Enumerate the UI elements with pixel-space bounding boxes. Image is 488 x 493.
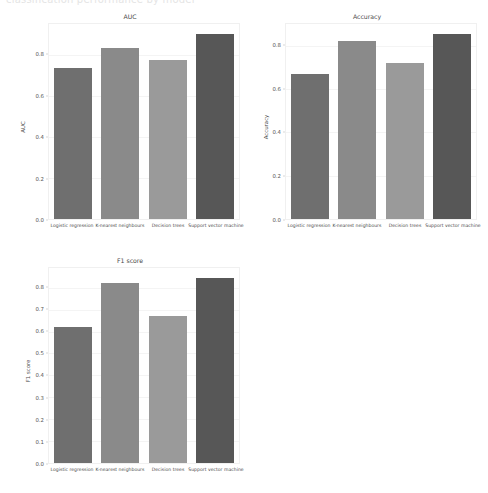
bar-f1-0: [54, 327, 92, 463]
bars-auc: [49, 24, 239, 219]
y-tick-label: 0.4: [272, 129, 281, 135]
bars-f1: [49, 268, 239, 463]
chart-title-auc: AUC: [18, 12, 242, 21]
x-tick-label: K-nearest neighbours: [333, 222, 382, 229]
bar-auc-1: [101, 48, 139, 219]
y-tick-label: 0.7: [35, 306, 44, 312]
bar-f1-1: [101, 283, 139, 463]
plot-area-f1: [48, 267, 240, 464]
x-tick-label: Support vector machine: [425, 222, 480, 229]
x-axis-ticks-accuracy: Logistic regressionK-nearest neighboursD…: [285, 222, 477, 234]
y-tick-label: 0.8: [35, 284, 44, 290]
bars-accuracy: [286, 24, 476, 219]
chart-title-accuracy: Accuracy: [255, 12, 479, 21]
y-tick-label: 0.2: [35, 176, 44, 182]
bar-auc-0: [54, 68, 92, 219]
x-tick-label: Support vector machine: [188, 466, 243, 473]
y-tick-label: 0.1: [35, 439, 44, 445]
chart-panel-f1: F1 score F1 score 0.00.10.20.30.40.50.60…: [18, 256, 242, 486]
chart-panel-accuracy: Accuracy Accuracy 0.00.20.40.60.8 Logist…: [255, 12, 479, 242]
y-axis-ticks-auc: 0.00.20.40.60.8: [18, 23, 48, 220]
y-axis-ticks-accuracy: 0.00.20.40.60.8: [255, 23, 285, 220]
chart-title-f1: F1 score: [18, 256, 242, 265]
y-tick-label: 0.8: [272, 42, 281, 48]
y-tick-label: 0.0: [272, 217, 281, 223]
x-tick-label: Logistic regression: [288, 222, 331, 229]
y-tick-label: 0.4: [35, 372, 44, 378]
bar-f1-3: [196, 278, 234, 463]
y-tick-label: 0.6: [35, 93, 44, 99]
bar-accuracy-0: [291, 74, 329, 219]
x-tick-label: Support vector machine: [188, 222, 243, 229]
bar-auc-3: [196, 34, 234, 219]
x-tick-label: K-nearest neighbours: [96, 222, 145, 229]
x-tick-label: Decision trees: [152, 222, 185, 229]
bar-accuracy-3: [433, 34, 471, 219]
x-tick-label: K-nearest neighbours: [96, 466, 145, 473]
x-axis-ticks-f1: Logistic regressionK-nearest neighboursD…: [48, 466, 240, 478]
x-tick-label: Logistic regression: [51, 466, 94, 473]
plot-area-accuracy: [285, 23, 477, 220]
y-tick-label: 0.2: [272, 173, 281, 179]
bar-auc-2: [149, 60, 187, 219]
y-tick-label: 0.5: [35, 350, 44, 356]
y-tick-label: 0.4: [35, 134, 44, 140]
y-tick-label: 0.0: [35, 217, 44, 223]
x-tick-label: Decision trees: [152, 466, 185, 473]
plot-area-auc: [48, 23, 240, 220]
bar-accuracy-1: [338, 41, 376, 219]
y-tick-label: 0.8: [35, 51, 44, 57]
y-tick-label: 0.0: [35, 461, 44, 467]
x-axis-ticks-auc: Logistic regressionK-nearest neighboursD…: [48, 222, 240, 234]
bar-accuracy-2: [386, 63, 424, 219]
x-tick-label: Decision trees: [389, 222, 422, 229]
y-tick-label: 0.6: [35, 328, 44, 334]
figure-bar-chart-grid: AUC AUC 0.00.20.40.60.8 Logistic regress…: [0, 0, 488, 493]
x-tick-label: Logistic regression: [51, 222, 94, 229]
chart-panel-auc: AUC AUC 0.00.20.40.60.8 Logistic regress…: [18, 12, 242, 242]
y-tick-label: 0.6: [272, 86, 281, 92]
y-tick-label: 0.3: [35, 395, 44, 401]
y-tick-label: 0.2: [35, 417, 44, 423]
y-axis-ticks-f1: 0.00.10.20.30.40.50.60.70.8: [18, 267, 48, 464]
bar-f1-2: [149, 316, 187, 463]
